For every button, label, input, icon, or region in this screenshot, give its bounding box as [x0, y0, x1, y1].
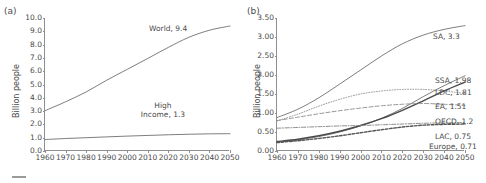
panel-a-x-tick-mark — [107, 150, 108, 153]
panel-b-x-tick-label: 2030 — [414, 154, 433, 162]
panel-b-x-tick-mark — [277, 150, 278, 153]
panel-b-y-tick-mark — [275, 56, 278, 57]
panel-a-x-tick-mark — [148, 150, 149, 153]
series-line-world — [45, 26, 230, 111]
panel-b-y-tick-mark — [275, 37, 278, 38]
panel-a-y-tick-label: 8.0 — [30, 41, 42, 49]
panel-b-x-tick-label: 1960 — [267, 154, 286, 162]
panel-a-y-tick-label: 7.0 — [30, 54, 42, 62]
panel-b-y-tick-mark — [275, 94, 278, 95]
panel-b-y-tick-label: 0.50 — [257, 128, 274, 136]
panel-a-x-tick-label: 2040 — [200, 154, 219, 162]
panel-a-x-tick-label: 2030 — [179, 154, 198, 162]
panel-a-y-tick-label: 2.0 — [30, 121, 42, 129]
figure-canvas: (a) Billion people 0.01.02.03.04.05.06.0… — [0, 0, 486, 183]
panel-a-y-tick-label: 10.0 — [25, 14, 42, 22]
series-annotation-ldc: LDC, 1.81 — [435, 88, 472, 97]
panel-a-y-tick-mark — [43, 85, 46, 86]
panel-b-y-tick-label: 2.50 — [257, 52, 274, 60]
series-annotation-europe: Europe, 0.71 — [429, 142, 477, 151]
chart-panel-a: (a) Billion people 0.01.02.03.04.05.06.0… — [0, 0, 243, 183]
panel-b-y-tick-mark — [275, 113, 278, 114]
panel-a-y-tick-label: 6.0 — [30, 67, 42, 75]
panel-a-x-tick-mark — [45, 150, 46, 153]
panel-b-x-tick-label: 2050 — [455, 154, 474, 162]
panel-b-x-tick-mark — [298, 150, 299, 153]
panel-a-x-tick-mark — [127, 150, 128, 153]
panel-b-y-tick-mark — [275, 75, 278, 76]
panel-b-y-tick-label: 2.00 — [257, 71, 274, 79]
series-annotation-world: World, 9.4 — [149, 24, 187, 33]
panel-b-x-tick-mark — [381, 150, 382, 153]
series-annotation-oecd: OECD, 1.2 — [435, 117, 473, 126]
panel-a-y-tick-mark — [43, 31, 46, 32]
panel-a-y-tick-mark — [43, 98, 46, 99]
series-annotation-high-income: High Income, 1.3 — [141, 101, 185, 119]
panel-b-x-tick-label: 2040 — [435, 154, 454, 162]
panel-a-x-tick-mark — [230, 150, 231, 153]
panel-a-y-tick-mark — [43, 58, 46, 59]
panel-a-y-tick-label: 5.0 — [30, 81, 42, 89]
panel-b-x-tick-mark — [319, 150, 320, 153]
series-annotation-ea: EA, 1.51 — [435, 102, 466, 111]
panel-b-x-tick-label: 1970 — [288, 154, 307, 162]
series-annotation-sa: SA, 3.3 — [433, 32, 460, 41]
panel-a-y-tick-label: 3.0 — [30, 107, 42, 115]
panel-a-y-tick-mark — [43, 71, 46, 72]
panel-a-x-tick-label: 1960 — [35, 154, 54, 162]
panel-a-x-tick-label: 2010 — [138, 154, 157, 162]
series-line-high-income — [45, 134, 230, 140]
panel-b-x-tick-label: 2000 — [351, 154, 370, 162]
panel-a-x-tick-label: 2000 — [118, 154, 137, 162]
panel-b-y-tick-mark — [275, 18, 278, 19]
panel-b-x-tick-mark — [402, 150, 403, 153]
panel-a-x-tick-label: 2050 — [220, 154, 239, 162]
panel-a-y-tick-mark — [43, 45, 46, 46]
panel-b-y-tick-label: 1.00 — [257, 109, 274, 117]
panel-a-x-tick-mark — [86, 150, 87, 153]
panel-a-y-tick-mark — [43, 111, 46, 112]
footer-rule — [12, 176, 26, 178]
panel-b-y-tick-label: 3.00 — [257, 33, 274, 41]
panel-a-series-layer — [45, 18, 230, 151]
panel-a-x-tick-mark — [209, 150, 210, 153]
panel-a-x-tick-mark — [189, 150, 190, 153]
chart-panel-b: (b) Billion people 0.000.501.001.502.002… — [243, 0, 486, 183]
panel-a-x-tick-mark — [168, 150, 169, 153]
panel-a-letter: (a) — [4, 6, 17, 16]
panel-a-y-tick-label: 9.0 — [30, 28, 42, 36]
panel-a-y-tick-label: 4.0 — [30, 94, 42, 102]
panel-b-x-tick-mark — [340, 150, 341, 153]
panel-b-x-tick-label: 2020 — [393, 154, 412, 162]
panel-b-x-tick-label: 1990 — [330, 154, 349, 162]
panel-a-x-tick-label: 1980 — [77, 154, 96, 162]
panel-b-y-tick-label: 3.50 — [257, 14, 274, 22]
panel-a-y-tick-label: 1.0 — [30, 134, 42, 142]
panel-a-x-tick-label: 1970 — [56, 154, 75, 162]
panel-a-y-axis-title: Billion people — [12, 64, 21, 118]
panel-a-y-tick-mark — [43, 124, 46, 125]
panel-b-y-tick-label: 1.50 — [257, 90, 274, 98]
panel-a-y-tick-mark — [43, 18, 46, 19]
panel-b-plot-area: 0.000.501.001.502.002.503.003.5019601970… — [276, 18, 464, 151]
panel-a-plot-area: 0.01.02.03.04.05.06.07.08.09.010.0196019… — [44, 18, 229, 151]
panel-b-x-tick-mark — [361, 150, 362, 153]
panel-a-y-tick-mark — [43, 138, 46, 139]
panel-a-x-tick-mark — [66, 150, 67, 153]
series-annotation-ssa: SSA, 1.98 — [435, 76, 471, 85]
panel-a-x-tick-label: 1990 — [97, 154, 116, 162]
panel-b-x-tick-label: 2010 — [372, 154, 391, 162]
panel-b-x-tick-label: 1980 — [309, 154, 328, 162]
panel-b-y-tick-mark — [275, 132, 278, 133]
panel-a-x-tick-label: 2020 — [159, 154, 178, 162]
series-annotation-lac: LAC, 0.75 — [435, 132, 471, 141]
panel-b-x-tick-mark — [423, 150, 424, 153]
